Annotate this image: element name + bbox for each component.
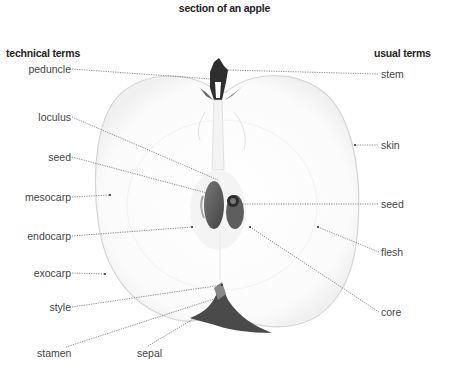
label-mesocarp: mesocarp — [25, 191, 71, 203]
label-seed-technical: seed — [48, 151, 71, 163]
label-exocarp: exocarp — [34, 267, 71, 279]
label-core: core — [381, 306, 401, 318]
label-peduncle: peduncle — [28, 63, 71, 75]
label-flesh: flesh — [381, 246, 403, 258]
label-skin: skin — [381, 139, 400, 151]
label-seed-usual: seed — [381, 198, 404, 210]
label-endocarp: endocarp — [27, 230, 71, 242]
label-sepal: sepal — [137, 347, 162, 359]
label-style: style — [49, 301, 71, 313]
label-stem: stem — [381, 68, 404, 80]
label-loculus: loculus — [38, 111, 71, 123]
label-stamen: stamen — [37, 347, 71, 359]
seed-shape-left — [204, 181, 224, 229]
